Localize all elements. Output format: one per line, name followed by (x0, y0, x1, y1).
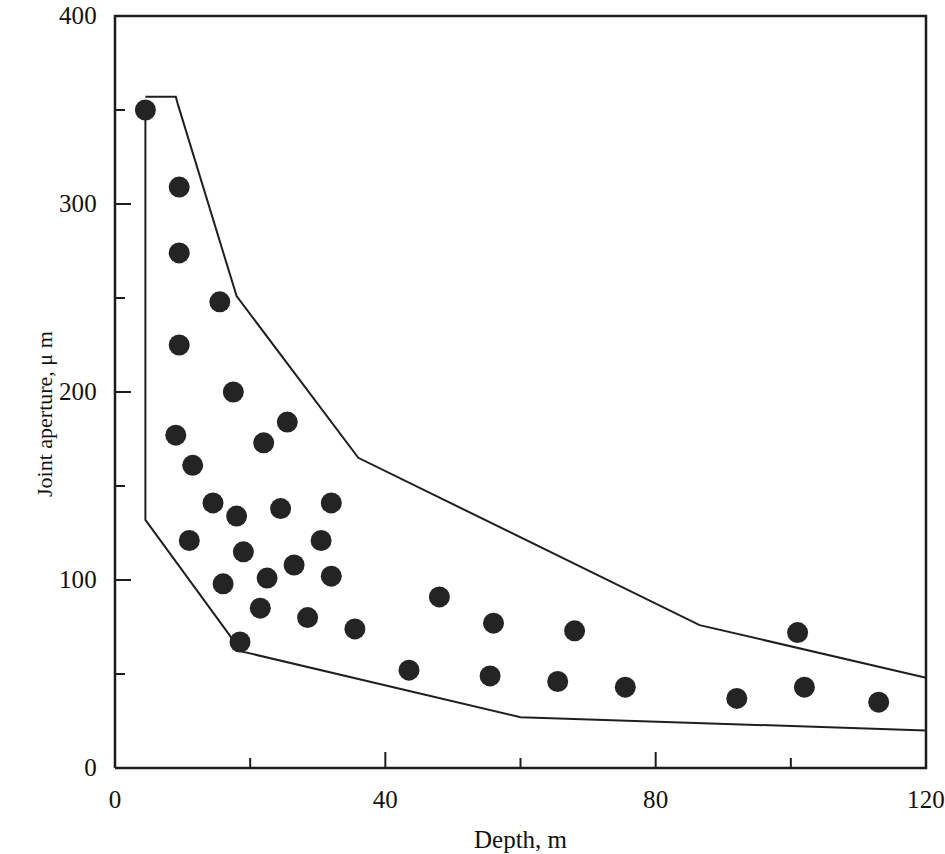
x-axis-title: Depth, m (474, 826, 567, 854)
data-point (179, 530, 200, 551)
x-tick-label: 0 (109, 786, 122, 814)
y-tick-label: 300 (59, 190, 97, 218)
data-point (270, 498, 291, 519)
y-tick-label: 0 (84, 754, 97, 782)
data-point (483, 613, 504, 634)
data-point (233, 541, 254, 562)
y-tick-label: 200 (59, 378, 97, 406)
lower-bound-envelope (145, 104, 926, 730)
data-point (794, 677, 815, 698)
x-axis-ticks (115, 752, 926, 768)
y-tick-label: 100 (59, 566, 97, 594)
data-point (230, 632, 251, 653)
data-point (726, 688, 747, 709)
data-point (564, 620, 585, 641)
data-point (399, 660, 420, 681)
data-point (321, 566, 342, 587)
data-point (787, 622, 808, 643)
data-point (165, 425, 186, 446)
data-point (284, 555, 305, 576)
data-point (480, 665, 501, 686)
data-point (169, 242, 190, 263)
data-point (311, 530, 332, 551)
data-point (250, 598, 271, 619)
data-point (209, 291, 230, 312)
x-tick-label: 40 (373, 786, 398, 814)
x-tick-label: 120 (907, 786, 945, 814)
data-point (321, 492, 342, 513)
data-point (344, 618, 365, 639)
y-tick-label: 400 (59, 2, 97, 30)
data-point (169, 177, 190, 198)
data-point (135, 100, 156, 121)
data-point (277, 412, 298, 433)
y-axis-title: Joint aperture, μ m (32, 331, 58, 497)
data-point (615, 677, 636, 698)
data-point (257, 568, 278, 589)
bounding-envelopes (145, 97, 926, 731)
data-point (203, 492, 224, 513)
upper-bound-envelope (145, 97, 926, 678)
data-point (547, 671, 568, 692)
y-axis-ticks (115, 16, 131, 768)
data-point (868, 692, 889, 713)
data-point (429, 586, 450, 607)
data-point (182, 455, 203, 476)
data-point (253, 432, 274, 453)
data-point (297, 607, 318, 628)
scatter-points (135, 100, 889, 713)
data-point (226, 506, 247, 527)
data-point (213, 573, 234, 594)
x-tick-label: 80 (643, 786, 668, 814)
data-point (169, 335, 190, 356)
data-point (223, 382, 244, 403)
